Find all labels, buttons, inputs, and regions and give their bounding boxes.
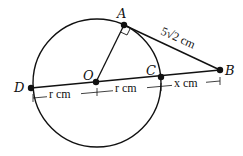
label-D: D (13, 80, 25, 95)
measure-CB: x cm (174, 76, 198, 90)
measure-AB: 5√2 cm (159, 24, 198, 52)
measure-DO: r cm (49, 87, 71, 101)
measure-OC: r cm (115, 81, 137, 95)
geometry-diagram: A B C D O 5√2 cm r cm r cm x cm (0, 0, 243, 156)
point-B (217, 67, 223, 73)
label-B: B (224, 63, 235, 78)
label-A: A (116, 6, 126, 21)
radius-OA (96, 25, 124, 82)
label-O: O (83, 68, 94, 83)
label-C: C (146, 63, 156, 78)
point-O (93, 79, 99, 85)
point-A (121, 22, 127, 28)
point-C (158, 74, 164, 80)
point-D (28, 85, 34, 91)
